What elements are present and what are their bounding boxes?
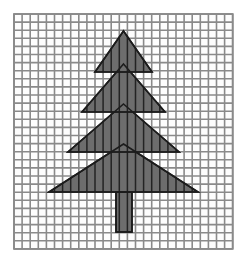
figure-canvas: A gray shaded tree made of four stacked … [0, 0, 246, 262]
grid-tree-figure [0, 0, 246, 262]
tree-trunk [116, 192, 132, 232]
